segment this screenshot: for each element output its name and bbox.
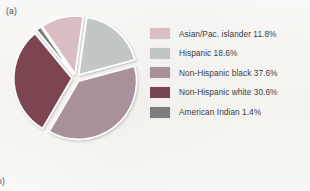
legend-swatch-asian-pac-islander (150, 28, 170, 39)
legend-item-asian-pac-islander[interactable]: Asian/Pac. islander 11.8% (150, 24, 308, 44)
pie-slices (14, 16, 137, 139)
legend-label-asian-pac-islander: Asian/Pac. islander 11.8% (179, 30, 277, 38)
legend-item-non-hispanic-white[interactable]: Non-Hispanic white 30.6% (150, 83, 308, 103)
legend-item-hispanic[interactable]: Hispanic 18.6% (150, 44, 308, 64)
legend: Asian/Pac. islander 11.8% Hispanic 18.6%… (150, 24, 308, 122)
legend-item-non-hispanic-black[interactable]: Non-Hispanic black 37.6% (150, 63, 308, 83)
pie-chart-svg (8, 10, 148, 150)
legend-label-non-hispanic-white: Non-Hispanic white 30.6% (179, 88, 278, 96)
legend-swatch-non-hispanic-black (150, 67, 170, 78)
pie-chart (8, 10, 148, 150)
legend-swatch-hispanic (150, 48, 170, 59)
legend-swatch-american-indian (150, 107, 170, 118)
legend-item-american-indian[interactable]: American Indian 1.4% (150, 102, 308, 122)
panel-label-b: b) (0, 176, 5, 186)
legend-label-american-indian: American Indian 1.4% (179, 108, 261, 116)
pie-slice[interactable] (79, 17, 135, 74)
legend-swatch-non-hispanic-white (150, 87, 170, 98)
legend-label-hispanic: Hispanic 18.6% (179, 49, 237, 57)
legend-label-non-hispanic-black: Non-Hispanic black 37.6% (179, 69, 278, 77)
figure-panel: (a) Asian/Pac. islander 11.8% Hispanic 1… (0, 0, 310, 191)
